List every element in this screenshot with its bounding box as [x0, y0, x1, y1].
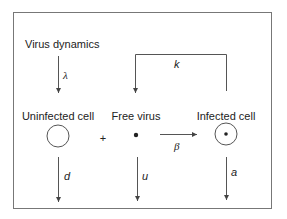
uninfected-cell-label: Uninfected cell: [22, 110, 94, 122]
a-label: a: [231, 166, 237, 178]
infected-cell-virus-dot-icon: [224, 132, 228, 136]
u-label: u: [142, 170, 148, 182]
d-label: d: [64, 170, 71, 182]
infected-cell-label: Infected cell: [197, 110, 256, 122]
diagram-title: Virus dynamics: [25, 38, 100, 50]
k-label: k: [174, 58, 180, 70]
plus-operator: +: [100, 132, 106, 144]
k-feedback-arrow: [136, 55, 227, 94]
free-virus-icon: [134, 133, 138, 137]
beta-label: β: [173, 140, 180, 152]
free-virus-label: Free virus: [112, 110, 161, 122]
virus-dynamics-diagram: Virus dynamics λ k Uninfected cell Free …: [0, 0, 287, 219]
lambda-label: λ: [62, 69, 68, 81]
uninfected-cell-icon: [47, 125, 69, 147]
